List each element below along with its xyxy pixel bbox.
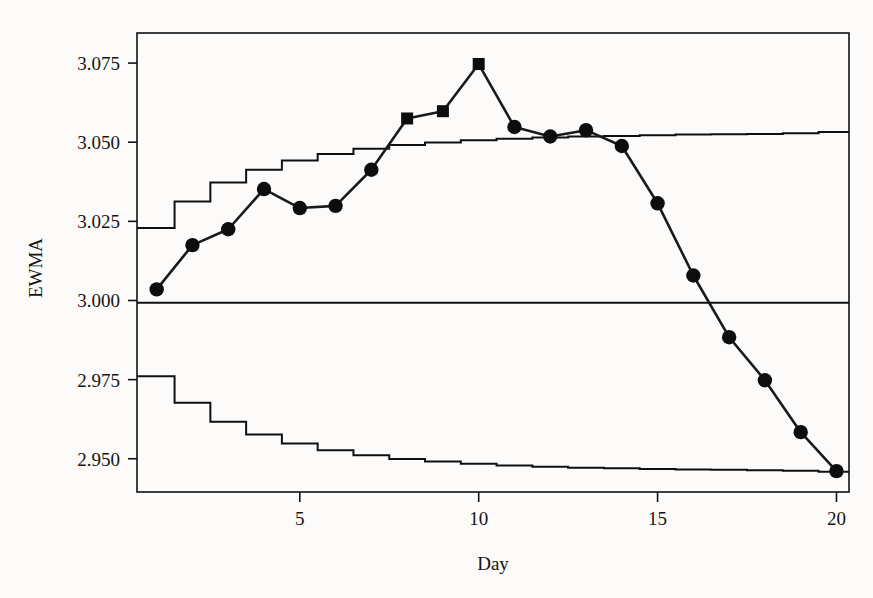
data-point-marker-circle [257, 182, 271, 196]
data-point-marker-circle [507, 120, 521, 134]
ewma-series-markers [149, 58, 843, 478]
x-axis-title: Day [477, 553, 509, 574]
axes-frame [137, 33, 849, 492]
data-point-marker-circle [328, 199, 342, 213]
data-point-marker-circle [293, 201, 307, 215]
y-tick-label: 3.075 [77, 53, 120, 74]
data-point-marker-circle [686, 268, 700, 282]
data-point-marker-circle [543, 129, 557, 143]
y-tick-label: 2.975 [77, 370, 120, 391]
data-point-marker-circle [615, 139, 629, 153]
data-point-marker-circle [364, 163, 378, 177]
ewma-series-line [157, 64, 837, 471]
data-point-marker-circle [722, 330, 736, 344]
y-axis-title: EWMA [25, 238, 46, 298]
data-point-marker-circle [650, 196, 664, 210]
x-tick-label: 5 [295, 508, 305, 529]
data-point-marker-square [401, 112, 413, 124]
data-point-marker-circle [793, 425, 807, 439]
ewma-control-chart-figure: 2.9502.9753.0003.0253.0503.075 5101520 D… [0, 0, 873, 598]
y-tick-label: 3.000 [77, 290, 120, 311]
data-point-marker-square [473, 58, 485, 70]
data-point-marker-circle [149, 282, 163, 296]
x-tick-label: 15 [648, 508, 667, 529]
y-axis-ticks: 2.9502.9753.0003.0253.0503.075 [77, 53, 137, 470]
lower-control-limit-line [137, 376, 849, 472]
x-tick-label: 20 [827, 508, 846, 529]
data-point-marker-circle [185, 238, 199, 252]
plot-frame [137, 33, 849, 492]
data-point-marker-circle [829, 464, 843, 478]
y-tick-label: 3.050 [77, 132, 120, 153]
x-tick-label: 10 [469, 508, 488, 529]
y-tick-label: 2.950 [77, 449, 120, 470]
data-point-marker-circle [758, 373, 772, 387]
data-point-marker-circle [579, 123, 593, 137]
chart-canvas: 2.9502.9753.0003.0253.0503.075 5101520 D… [0, 0, 873, 598]
x-axis-ticks: 5101520 [295, 492, 846, 529]
data-point-marker-circle [221, 222, 235, 236]
y-tick-label: 3.025 [77, 211, 120, 232]
data-point-marker-square [437, 105, 449, 117]
